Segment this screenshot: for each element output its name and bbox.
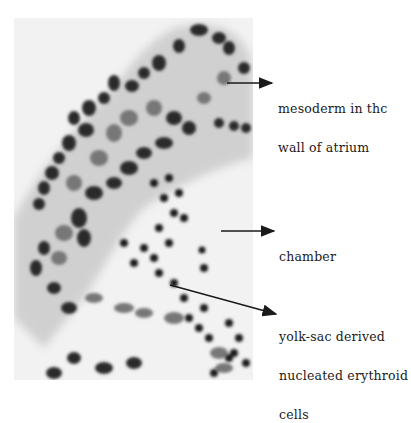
- label-mesoderm: mesoderm in thc wall of atrium: [278, 76, 388, 167]
- arrow-erythroid: [170, 285, 276, 314]
- label-chamber: chamber: [279, 224, 336, 276]
- label-line: wall of atrium: [278, 141, 388, 154]
- label-line: chamber: [279, 250, 336, 263]
- label-line: cells: [279, 408, 408, 421]
- label-erythroid: yolk-sac derived nucleated erythroid cel…: [279, 304, 408, 423]
- label-line: mesoderm in thc: [278, 102, 388, 115]
- label-line: nucleated erythroid: [279, 369, 408, 382]
- label-line: yolk-sac derived: [279, 330, 408, 343]
